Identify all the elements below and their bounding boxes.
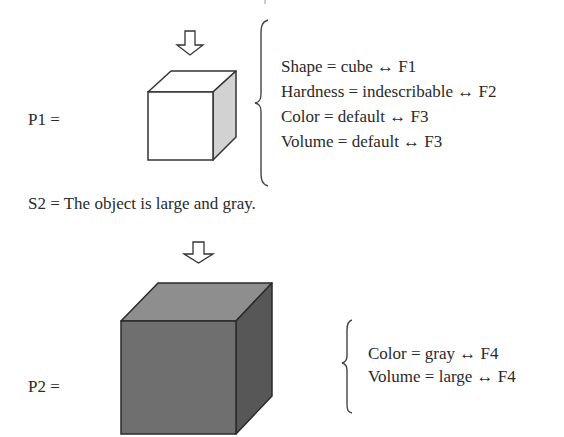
left-brace-2	[342, 320, 352, 413]
down-arrow-icon	[184, 242, 213, 263]
attribute-volume: Volume = large ↔ F4	[368, 368, 516, 385]
attribute-volume: Volume = default ↔ F3	[281, 133, 442, 150]
attribute-shape: Shape = cube ↔ F1	[281, 58, 416, 75]
panel-1-label: P1 =	[28, 111, 60, 128]
attribute-hardness: Hardness = indescribable ↔ F2	[281, 83, 496, 100]
left-brace-1	[255, 20, 268, 186]
attribute-color: Color = gray ↔ F4	[368, 345, 498, 362]
white-cube-icon	[148, 71, 236, 160]
down-arrow-icon	[177, 31, 203, 55]
attribute-color: Color = default ↔ F3	[281, 108, 428, 125]
gray-cube-icon	[121, 283, 272, 434]
panel-2-label: P2 =	[28, 378, 60, 395]
statement-s2: S2 = The object is large and gray.	[28, 195, 256, 212]
